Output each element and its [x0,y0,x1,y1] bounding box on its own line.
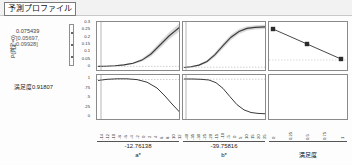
prediction-scale-handle[interactable] [69,24,74,66]
panel-plot-r2c1 [97,75,180,120]
x-tick: -10 [111,134,116,140]
scale-dot [71,44,73,46]
panel-p-vs-desirability[interactable] [268,21,348,71]
prediction-profiler-window: 予測プロファイル P(判定=0) 0.075439 [0.05697, 0.09… [0,0,352,165]
y-tick: 1 [88,76,90,80]
panel-desirability-empty [268,74,348,120]
x-tick: -30 [196,134,201,140]
x-tick: -14 [99,134,104,140]
x-tick: 0 [232,136,237,138]
panel-plot-r1c3 [269,22,348,71]
axis-title-desirability: 満足度 [268,150,348,159]
x-tick: 2 [147,136,152,138]
x-tick: -10 [220,133,225,139]
page-title: 予測プロファイル [4,2,76,16]
panel-p-vs-b[interactable] [182,21,266,71]
x-tick: 15 [250,134,255,139]
mean-curve [184,27,266,68]
y-tick: 0.1 [84,49,90,53]
desirability-curve [98,79,180,113]
x-tick: -35 [190,134,195,140]
panel-desirability-vs-b[interactable] [182,74,266,120]
axis-title-a: a* [96,152,180,158]
data-marker[interactable] [271,27,275,31]
panel-plot-r1c1 [97,22,180,71]
x-tick: 0.5 [305,134,310,140]
x-tick: -6 [123,135,128,139]
desirability-value: 満足度0.91807 [14,84,53,91]
y-tick: 0.2 [84,35,90,39]
x-tick: -8 [117,135,122,139]
x-tick: 0 [271,137,276,139]
x-tick: -25 [202,134,207,140]
x-axis-rule-desirability [269,141,347,142]
x-axis-rule-a [97,141,179,142]
panel-desirability-vs-a[interactable] [96,74,180,120]
y-tick: 0.3 [84,20,90,24]
x-tick: 10 [171,134,176,139]
predicted-value: 0.075439 [16,28,39,34]
x-tick: 5 [238,137,243,139]
x-tick: 1 [340,137,345,139]
panel-plot-r2c2 [183,75,266,120]
x-tick: 6 [159,137,164,139]
y-tick: 0 [88,114,90,118]
desirability-curve [184,79,266,114]
confidence-band [184,25,266,68]
x-tick: 0.25 [288,132,293,140]
y-axis-ticks-row1: 0.3 0.25 0.2 0.15 0.1 0.05 0 [76,20,90,68]
current-value-b[interactable]: -39.75816 [182,143,266,149]
x-tick: -2 [135,135,140,139]
x-tick: 4 [153,136,158,138]
scale-dot [71,32,73,34]
y-tick: 0 [88,64,90,68]
x-tick: 10 [244,134,249,139]
data-marker[interactable] [305,42,309,46]
y-axis-ticks-row2: 1 .75 .5 .25 0 [76,76,90,120]
confidence-band [98,23,180,67]
x-axis-rule-b [183,141,265,142]
x-tick: -5 [226,135,231,139]
panel-plot-r1c2 [183,22,266,71]
x-tick: -20 [208,134,213,140]
scale-dot [71,56,73,58]
x-tick: 0.75 [322,132,327,140]
y-tick: .75 [84,86,90,90]
x-tick: 8 [165,137,170,139]
axis-title-b: b* [182,152,266,158]
x-tick: 20 [256,134,261,139]
window-titlebar: 予測プロファイル [0,0,352,16]
x-tick: -4 [129,135,134,139]
data-marker[interactable] [339,57,343,61]
y-tick: 0.05 [82,57,90,61]
ci-upper: 0.09928] [16,41,38,47]
ci-lower: [0.05697, [16,35,39,41]
x-tick: 12 [177,134,182,139]
x-tick: -15 [214,134,219,140]
x-tick: -40 [184,134,189,140]
x-tick: -12 [105,134,110,140]
current-value-a[interactable]: -12.76138 [96,143,180,149]
x-tick: 0 [141,136,146,138]
y-tick: .5 [87,95,91,99]
y-tick: 0.15 [82,42,90,46]
panel-p-vs-a[interactable] [96,21,180,71]
y-tick: 0.25 [82,27,90,31]
y-tick: .25 [84,105,90,109]
x-tick: 25 [262,134,267,139]
